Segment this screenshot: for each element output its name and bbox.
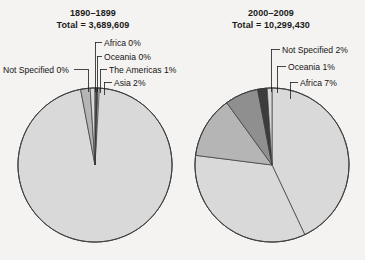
pie-slice-the-americas <box>90 88 95 165</box>
panel-left-title: 1890–1899 Total = 3,689,609 <box>8 8 178 31</box>
slice-label-right-europe-name: Europe <box>224 122 252 132</box>
pie-slice-asia <box>195 155 305 242</box>
callout-right-oceania: Oceania 1% <box>288 62 335 72</box>
pie-slice-europe <box>18 88 172 242</box>
callout-right-not-specified: Not Specified 2% <box>282 45 348 55</box>
slice-label-right-americas-name: The Americas <box>287 176 340 186</box>
panel-right-title: 2000–2009 Total = 10,299,430 <box>186 8 356 31</box>
callout-left-africa: Africa 0% <box>104 38 141 48</box>
leader-right-africa <box>290 82 298 99</box>
slice-label-right-americas: The Americas 43% <box>280 176 346 196</box>
panel-left-period: 1890–1899 <box>8 8 178 20</box>
panel-right-total: Total = 10,299,430 <box>186 20 356 32</box>
leader-left-americas <box>100 69 107 93</box>
slice-label-left-europe: Europe 97% <box>55 172 137 182</box>
pie-slice-the-americas <box>272 88 349 235</box>
leader-left-asia <box>104 82 112 95</box>
pie-outline <box>18 88 172 242</box>
pie-slice-asia <box>81 88 95 165</box>
leader-left-not-specified <box>74 69 88 92</box>
leader-left-africa <box>95 42 102 92</box>
callout-left-asia: Asia 2% <box>114 78 146 88</box>
leader-left-oceania <box>97 56 102 92</box>
pie-slice-africa <box>95 88 98 165</box>
slice-label-right-asia: Asia 34% <box>196 178 258 188</box>
leader-lines <box>0 0 365 260</box>
panel-left-total: Total = 3,689,609 <box>8 20 178 32</box>
pie-disc <box>195 88 349 242</box>
callout-left-not-specified: Not Specified 0% <box>3 65 69 75</box>
callout-left-americas: The Americas 1% <box>109 65 176 75</box>
slice-label-right-europe: Europe 13% <box>212 122 264 142</box>
pie-slice-not-specified <box>95 88 99 165</box>
callout-right-africa: Africa 7% <box>300 78 337 88</box>
pie-disc <box>18 88 172 242</box>
leader-right-not-specified <box>271 49 280 92</box>
leader-right-oceania <box>277 66 286 93</box>
pie-slice-oceania <box>95 88 96 165</box>
slice-label-right-americas-pct: 43% <box>304 186 321 196</box>
slice-label-right-europe-pct: 13% <box>229 132 246 142</box>
pie-graphics <box>0 0 365 260</box>
panel-right-period: 2000–2009 <box>186 8 356 20</box>
callout-left-oceania: Oceania 0% <box>104 52 151 62</box>
pie-outline <box>195 88 349 242</box>
pie-chart-figure: 1890–1899 Total = 3,689,609 Africa 0% Oc… <box>0 0 365 260</box>
pie-slice-oceania <box>267 88 272 165</box>
